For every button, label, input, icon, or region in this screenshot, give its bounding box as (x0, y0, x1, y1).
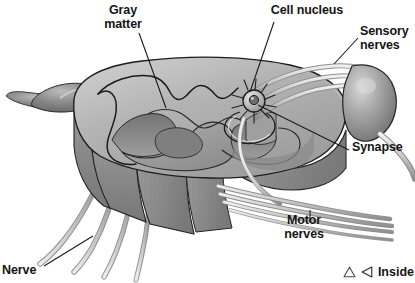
spinal-cord-figure: Gray matter Cell nucleus Sensory nerves … (0, 0, 415, 283)
triangle-up-outline-icon (343, 266, 356, 278)
label-gray-matter: Gray matter (92, 4, 154, 31)
leader-sensory (334, 38, 358, 64)
inside-key-label: Inside (378, 266, 414, 279)
label-synapse: Synapse (352, 141, 414, 155)
label-cell-nucleus: Cell nucleus (259, 4, 355, 18)
triangle-left-outline-icon (361, 266, 373, 278)
inside-key: Inside (318, 262, 414, 282)
label-motor-nerves: Motor nerves (277, 214, 331, 241)
label-nerve: Nerve (2, 264, 50, 278)
dorsal-root-ganglion (343, 65, 415, 179)
label-sensory-nerves: Sensory nerves (360, 25, 415, 52)
